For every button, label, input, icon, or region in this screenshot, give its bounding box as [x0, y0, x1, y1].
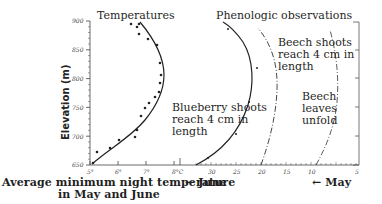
blueberry-annotation: Blueberry shoots reach 4 cm in length	[172, 102, 267, 138]
elevation-phenology-chart: 900 850 800 750 700 650 5° 6° 7° 8°C 30 …	[0, 0, 382, 204]
temperature-points	[92, 23, 163, 165]
x-tick-7: 7°	[143, 168, 150, 175]
x-tick-6: 6°	[115, 168, 122, 175]
x-tick-5: 5°	[87, 168, 94, 175]
day-tick-10: 10	[308, 168, 316, 175]
june-label: ← June	[185, 176, 227, 189]
may-label: ← May	[312, 176, 351, 189]
x-caption-line2: in May and June	[58, 188, 160, 201]
day-tick-25: 25	[233, 168, 241, 175]
y-tick-650: 650	[72, 161, 83, 168]
day-tick-15: 15	[283, 168, 291, 175]
temperature-fit-curve	[92, 22, 164, 164]
temperatures-title: Temperatures	[97, 9, 175, 22]
beech-shoots-annotation: Beech shoots reach 4 cm in length	[278, 37, 354, 73]
day-tick-20: 20	[258, 168, 266, 175]
day-tick-30: 30	[208, 168, 216, 175]
y-tick-700: 700	[72, 133, 83, 140]
x-tick-8c: 8°C	[172, 168, 183, 175]
x-axis	[90, 158, 359, 165]
beech-leaves-annotation: Beech leaves unfold	[302, 91, 337, 127]
phenologic-title: Phenologic observations	[216, 9, 352, 22]
y-tick-900: 900	[72, 17, 83, 24]
y-tick-750: 750	[72, 104, 83, 111]
y-tick-850: 850	[72, 46, 83, 53]
y-axis-label: Elevation (m)	[60, 64, 71, 140]
y-tick-800: 800	[72, 75, 83, 82]
day-tick-5: 5	[355, 168, 359, 175]
blueberry-curve	[196, 22, 252, 165]
y-axis	[86, 21, 90, 165]
beech-shoots-curve	[258, 28, 277, 165]
